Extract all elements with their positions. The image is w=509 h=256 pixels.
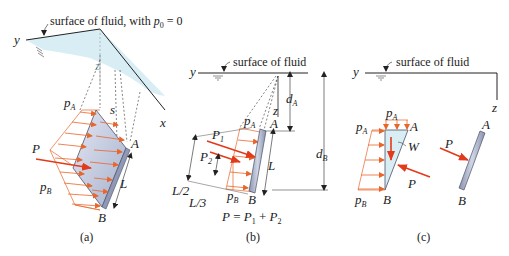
label-P-fluid: P bbox=[407, 176, 416, 191]
label-A-a: A bbox=[130, 136, 139, 151]
label-P-plate: P bbox=[444, 136, 453, 151]
equation-b: P = P1 + P2 bbox=[221, 209, 282, 226]
surface-leader bbox=[44, 24, 48, 35]
axis-y-label-a: y bbox=[12, 32, 20, 47]
plate-b bbox=[249, 129, 266, 193]
panel-c: surface of fluid y z W bbox=[351, 55, 497, 244]
label-s-a: s bbox=[110, 102, 115, 117]
label-pB-a: pB bbox=[39, 179, 52, 196]
label-dA: dA bbox=[286, 91, 298, 108]
label-B-a: B bbox=[98, 210, 106, 225]
panel-b: surface of fluid y z dA dB bbox=[171, 55, 328, 244]
label-pB-b: pB bbox=[226, 188, 239, 205]
label-L-a: L bbox=[119, 176, 127, 191]
resultant-force-P2 bbox=[210, 152, 240, 162]
surface-symbol-icon-b bbox=[213, 76, 223, 80]
label-A-plate: A bbox=[481, 117, 490, 132]
surface-leader-b bbox=[224, 62, 230, 71]
caption-c: (c) bbox=[417, 230, 430, 244]
axis-x-line bbox=[100, 29, 165, 110]
label-pA-top: pA bbox=[385, 105, 398, 122]
label-pA-a: pA bbox=[63, 95, 76, 112]
label-B-b: B bbox=[248, 192, 256, 207]
label-pA-left: pA bbox=[355, 119, 368, 136]
axis-x-label-a: x bbox=[159, 115, 166, 130]
resultant-force-P1 bbox=[207, 141, 255, 157]
surface-symbol-icon-c bbox=[376, 76, 386, 80]
surface-leader-c bbox=[386, 62, 392, 71]
label-B-fluid: B bbox=[383, 192, 391, 207]
dimension-L-half bbox=[188, 139, 195, 180]
label-L-b: L bbox=[267, 158, 275, 173]
label-B-plate: B bbox=[458, 193, 466, 208]
label-pB-c: pB bbox=[354, 192, 367, 209]
plate-c bbox=[459, 131, 485, 190]
axis-z-label-a: z bbox=[94, 58, 100, 73]
label-P-a: P bbox=[31, 141, 40, 156]
label-P2: P2 bbox=[199, 149, 212, 166]
fluid-wedge-c bbox=[385, 130, 408, 190]
label-L-third: L/3 bbox=[188, 195, 207, 210]
panel-a: surface of fluid, with p0 = 0 y x z bbox=[12, 14, 182, 244]
plate-a bbox=[73, 110, 126, 207]
label-A-fluid: A bbox=[409, 119, 418, 134]
caption-a: (a) bbox=[80, 230, 93, 244]
caption-b: (b) bbox=[246, 230, 260, 244]
dimension-L-third bbox=[215, 158, 218, 175]
label-pA-b: pA bbox=[243, 113, 256, 130]
surface-label-a: surface of fluid, with p0 = 0 bbox=[50, 14, 182, 30]
label-dB: dB bbox=[316, 146, 328, 163]
label-A-b: A bbox=[269, 116, 278, 131]
axis-y-label-c: y bbox=[351, 64, 359, 79]
label-W: W bbox=[408, 139, 420, 154]
label-L-half: L/2 bbox=[171, 183, 190, 198]
axis-z-label-c: z bbox=[491, 100, 497, 115]
label-P1: P1 bbox=[211, 127, 224, 144]
axis-y-label-b: y bbox=[188, 64, 196, 79]
surface-label-b: surface of fluid bbox=[233, 55, 306, 69]
fluid-surface-line-c bbox=[365, 73, 497, 100]
hydrostatic-force-figure: surface of fluid, with p0 = 0 y x z bbox=[0, 0, 509, 256]
surface-label-c: surface of fluid bbox=[396, 55, 469, 69]
left-pressure-arrows-c bbox=[358, 131, 384, 189]
